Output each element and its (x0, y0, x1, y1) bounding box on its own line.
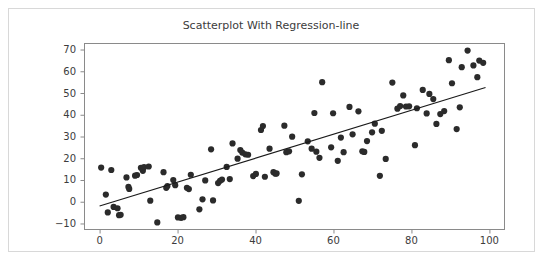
data-point (180, 214, 186, 220)
data-point (160, 169, 166, 175)
data-point (457, 104, 463, 110)
data-point (103, 191, 109, 197)
data-point (199, 196, 205, 202)
chart-title: Scatterplot With Regression-line (183, 19, 360, 32)
data-point (313, 149, 319, 155)
data-point (426, 91, 432, 97)
data-point (289, 134, 295, 140)
data-point (383, 156, 389, 162)
data-point (234, 156, 240, 162)
data-point (433, 121, 439, 127)
data-point (147, 198, 153, 204)
scatter-points (98, 48, 486, 226)
data-point (464, 48, 470, 54)
axis-tick-marks (81, 50, 490, 233)
data-point (208, 146, 214, 152)
data-point (349, 131, 355, 137)
data-point (98, 164, 104, 170)
data-point (412, 142, 418, 148)
data-point (470, 62, 476, 68)
data-point (364, 138, 370, 144)
data-point (338, 134, 344, 140)
data-point (118, 212, 124, 218)
data-point (420, 87, 426, 93)
data-point (480, 60, 486, 66)
data-point (389, 79, 395, 85)
x-tick-label: 60 (327, 235, 340, 246)
data-point (335, 158, 341, 164)
data-point (446, 57, 452, 63)
data-point (430, 96, 436, 102)
data-point (227, 176, 233, 182)
data-point (355, 108, 361, 114)
data-point (114, 205, 120, 211)
data-point (105, 209, 111, 215)
data-point (229, 140, 235, 146)
data-point (379, 128, 385, 134)
data-point (454, 126, 460, 132)
x-tick-label: 20 (171, 235, 184, 246)
data-point (260, 123, 266, 129)
data-point (273, 170, 279, 176)
data-point (134, 172, 140, 178)
data-point (146, 163, 152, 169)
data-point (361, 149, 367, 155)
data-point (449, 80, 455, 86)
x-axis-tick-labels: 020406080100 (96, 235, 499, 246)
y-axis-tick-labels: −10010203040506070 (55, 44, 76, 229)
y-tick-label: 50 (63, 88, 76, 99)
x-tick-label: 80 (405, 235, 418, 246)
y-tick-label: 70 (63, 44, 76, 55)
data-point (154, 219, 160, 225)
x-tick-label: 0 (96, 235, 102, 246)
data-point (202, 177, 208, 183)
data-point (400, 92, 406, 98)
data-point (319, 79, 325, 85)
data-point (262, 174, 268, 180)
y-tick-label: 60 (63, 66, 76, 77)
data-point (299, 171, 305, 177)
data-point (210, 197, 216, 203)
y-tick-label: 40 (63, 109, 76, 120)
data-point (126, 186, 132, 192)
y-tick-label: 0 (70, 196, 76, 207)
data-point (341, 149, 347, 155)
data-point (474, 74, 480, 80)
data-point (196, 206, 202, 212)
data-point (377, 173, 383, 179)
data-point (330, 110, 336, 116)
data-point (266, 146, 272, 152)
data-point (311, 110, 317, 116)
data-point (441, 108, 447, 114)
data-point (328, 144, 334, 150)
data-point (281, 123, 287, 129)
data-point (219, 176, 225, 182)
y-tick-label: −10 (55, 218, 76, 229)
scatterplot-chart: Scatterplot With Regression-line −100102… (0, 0, 543, 260)
data-point (245, 152, 251, 158)
data-point (346, 104, 352, 110)
x-tick-label: 100 (480, 235, 499, 246)
data-point (296, 198, 302, 204)
x-tick-label: 40 (249, 235, 262, 246)
data-point (397, 103, 403, 109)
data-point (369, 129, 375, 135)
data-point (424, 110, 430, 116)
regression-line (100, 88, 486, 207)
data-point (316, 155, 322, 161)
y-tick-label: 20 (63, 153, 76, 164)
data-point (459, 64, 465, 70)
y-tick-label: 10 (63, 174, 76, 185)
data-point (108, 167, 114, 173)
data-point (186, 186, 192, 192)
y-tick-label: 30 (63, 131, 76, 142)
data-point (253, 171, 259, 177)
data-point (123, 174, 129, 180)
data-point (406, 103, 412, 109)
figure-container: Scatterplot With Regression-line −100102… (0, 0, 543, 260)
